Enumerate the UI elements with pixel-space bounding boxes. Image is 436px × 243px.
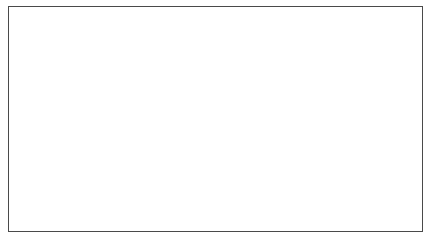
plot-border-frame bbox=[8, 6, 423, 232]
figure-root bbox=[0, 0, 436, 243]
